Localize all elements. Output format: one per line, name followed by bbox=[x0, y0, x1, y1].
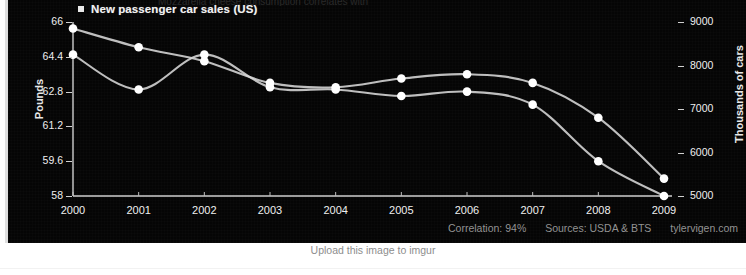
data-point-marker bbox=[594, 113, 603, 122]
data-point-marker bbox=[594, 157, 603, 166]
chart-footer-credits: Correlation: 94% Sources: USDA & BTS tyl… bbox=[8, 222, 738, 234]
bottom-divider bbox=[0, 268, 746, 269]
left-axis-tick-64-4: 64.4 bbox=[21, 50, 63, 62]
x-axis-tick-2005: 2005 bbox=[374, 204, 428, 216]
data-point-marker bbox=[660, 192, 669, 201]
right-axis-tick-5000: 5000 bbox=[690, 189, 742, 201]
left-tick-dash bbox=[66, 57, 72, 58]
left-axis-tick-62-8: 62.8 bbox=[21, 85, 63, 97]
x-axis-tick-2008: 2008 bbox=[571, 204, 625, 216]
left-axis-tick-61-2: 61.2 bbox=[21, 119, 63, 131]
footer-correlation: Correlation: 94% bbox=[448, 222, 526, 234]
left-axis-tick-66: 66 bbox=[21, 15, 63, 27]
series-cheese-consumption bbox=[69, 50, 669, 200]
footer-site: tylervigen.com bbox=[670, 222, 738, 234]
data-point-marker bbox=[397, 92, 406, 101]
data-point-marker bbox=[69, 24, 78, 33]
right-tick-dash bbox=[678, 66, 684, 67]
x-axis-tick-2006: 2006 bbox=[440, 204, 494, 216]
left-gray-edge bbox=[5, 0, 8, 243]
data-point-marker bbox=[397, 74, 406, 83]
data-point-marker bbox=[528, 100, 537, 109]
data-point-marker bbox=[660, 174, 669, 183]
data-point-marker bbox=[134, 43, 143, 52]
left-tick-dash bbox=[66, 161, 72, 162]
left-tick-dash bbox=[66, 22, 72, 23]
x-axis-tick-2004: 2004 bbox=[309, 204, 363, 216]
data-point-marker bbox=[134, 85, 143, 94]
right-axis-tick-9000: 9000 bbox=[690, 15, 742, 27]
chart-panel: Mozzarella cheese consumption correlates… bbox=[8, 0, 746, 243]
left-tick-dash bbox=[66, 92, 72, 93]
right-tick-dash bbox=[678, 196, 684, 197]
data-point-marker bbox=[266, 79, 275, 88]
left-axis-tick-58: 58 bbox=[21, 189, 63, 201]
series-line bbox=[73, 55, 664, 196]
data-point-marker bbox=[463, 70, 472, 79]
x-axis-tick-2009: 2009 bbox=[637, 204, 691, 216]
left-axis-tick-59-6: 59.6 bbox=[21, 154, 63, 166]
series-car-sales bbox=[69, 24, 669, 183]
right-tick-dash bbox=[678, 22, 684, 23]
chart-screenshot: Mozzarella cheese consumption correlates… bbox=[0, 0, 746, 275]
x-axis-tick-2003: 2003 bbox=[243, 204, 297, 216]
right-axis-tick-7000: 7000 bbox=[690, 102, 742, 114]
data-point-marker bbox=[200, 57, 209, 66]
footer-sources: Sources: USDA & BTS bbox=[545, 222, 651, 234]
data-point-marker bbox=[331, 83, 340, 92]
data-point-marker bbox=[528, 79, 537, 88]
imgur-upload-link[interactable]: Upload this image to imgur bbox=[0, 244, 746, 256]
x-axis-tick-2007: 2007 bbox=[506, 204, 560, 216]
right-axis-tick-8000: 8000 bbox=[690, 59, 742, 71]
x-axis-tick-2000: 2000 bbox=[46, 204, 100, 216]
left-tick-dash bbox=[66, 126, 72, 127]
right-tick-dash bbox=[678, 109, 684, 110]
left-tick-dash bbox=[66, 196, 72, 197]
data-point-marker bbox=[463, 87, 472, 96]
right-axis-tick-6000: 6000 bbox=[690, 146, 742, 158]
right-tick-dash bbox=[678, 153, 684, 154]
x-axis-tick-2002: 2002 bbox=[177, 204, 231, 216]
x-axis-tick-2001: 2001 bbox=[112, 204, 166, 216]
series-line bbox=[73, 29, 664, 179]
